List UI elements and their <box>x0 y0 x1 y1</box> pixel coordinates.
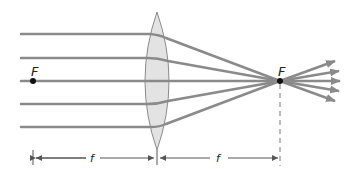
right-distance-label: f <box>216 152 222 165</box>
out-ray-2 <box>280 71 339 81</box>
right-focus-label: F <box>278 64 286 79</box>
outgoing-rays <box>280 61 340 101</box>
left-distance-label: f <box>90 152 96 165</box>
out-ray-5 <box>280 81 335 101</box>
dimension-lines <box>33 150 278 165</box>
lens-diagram: F F f f <box>0 0 357 169</box>
out-ray-1 <box>280 61 335 81</box>
left-focus-label: F <box>31 64 39 79</box>
out-ray-4 <box>280 81 339 91</box>
